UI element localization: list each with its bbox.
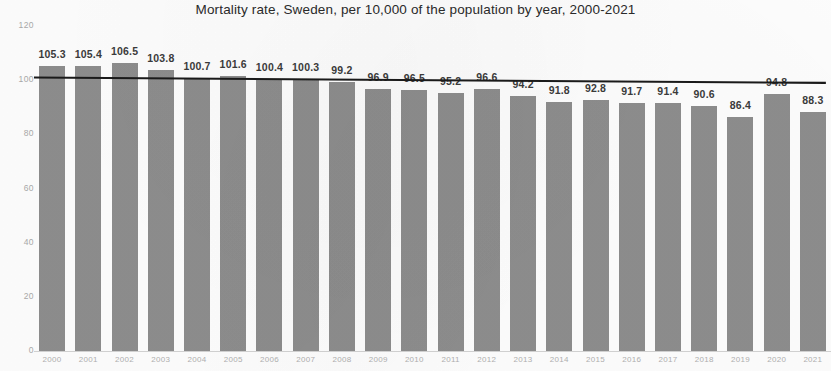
bar (546, 102, 572, 351)
bar-value-label: 94.2 (506, 78, 540, 90)
bar-rect (220, 76, 246, 351)
bar (184, 78, 210, 351)
bar-rect (691, 106, 717, 351)
y-axis-tick-label: 20 (4, 291, 34, 301)
x-axis-tick-label: 2015 (578, 355, 614, 364)
bar-rect (583, 100, 609, 351)
bar-rect (510, 96, 536, 351)
x-axis-tick-label: 2019 (722, 355, 758, 364)
x-axis-tick-label: 2004 (179, 355, 215, 364)
bar-value-label: 101.6 (216, 58, 250, 70)
y-axis-tick-label: 100 (4, 74, 34, 84)
bar-value-label: 92.8 (579, 82, 613, 94)
bar (112, 63, 138, 351)
x-axis-tick-label: 2014 (541, 355, 577, 364)
x-axis-tick-label: 2013 (505, 355, 541, 364)
bar (474, 89, 500, 351)
bar-value-label: 96.9 (361, 71, 395, 83)
bar (655, 103, 681, 351)
bar-value-label: 91.7 (615, 85, 649, 97)
bar-value-label: 91.4 (651, 85, 685, 97)
y-axis-tick-label: 0 (4, 345, 34, 355)
bar-rect (329, 82, 355, 351)
bar-value-label: 88.3 (796, 94, 830, 106)
x-axis-tick-label: 2021 (795, 355, 831, 364)
bar-rect (619, 103, 645, 351)
x-axis-tick-label: 2009 (360, 355, 396, 364)
bar (764, 94, 790, 351)
x-axis-tick-label: 2018 (686, 355, 722, 364)
x-axis-tick-label: 2020 (759, 355, 795, 364)
bar (148, 70, 174, 351)
bar (329, 82, 355, 351)
x-axis-tick-label: 2011 (433, 355, 469, 364)
x-axis-tick-label: 2005 (215, 355, 251, 364)
bar-value-label: 95.2 (434, 75, 468, 87)
bar (293, 79, 319, 351)
bar (583, 100, 609, 351)
bar-value-label: 103.8 (144, 52, 178, 64)
bar (438, 93, 464, 351)
x-axis-tick-label: 2001 (70, 355, 106, 364)
bar-rect (112, 63, 138, 351)
bar-rect (655, 103, 681, 351)
y-axis-tick-label: 60 (4, 183, 34, 193)
x-axis-tick-label: 2010 (396, 355, 432, 364)
bar (619, 103, 645, 351)
bar-rect (365, 89, 391, 351)
bar-value-label: 105.3 (35, 48, 69, 60)
x-axis-tick-label: 2017 (650, 355, 686, 364)
bar-value-label: 100.7 (180, 60, 214, 72)
bar-rect (800, 112, 826, 351)
y-axis-tick-label: 40 (4, 237, 34, 247)
bar (256, 79, 282, 351)
y-axis-tick-label: 120 (4, 20, 34, 30)
bar-value-label: 90.6 (687, 88, 721, 100)
bar-rect (546, 102, 572, 351)
bar-value-label: 99.2 (325, 64, 359, 76)
axis-baseline (34, 351, 831, 352)
bar-value-label: 100.3 (289, 61, 323, 73)
bar-rect (293, 79, 319, 351)
chart-title: Mortality rate, Sweden, per 10,000 of th… (0, 2, 831, 17)
bar-rect (184, 78, 210, 351)
x-axis-tick-label: 2002 (107, 355, 143, 364)
bar-rect (474, 89, 500, 351)
bar-value-label: 100.4 (252, 61, 286, 73)
x-axis-tick-label: 2016 (614, 355, 650, 364)
x-axis-tick-label: 2000 (34, 355, 70, 364)
bar (365, 89, 391, 351)
bar (401, 90, 427, 351)
bar (220, 76, 246, 351)
bar-rect (75, 66, 101, 351)
bar-value-label: 86.4 (723, 99, 757, 111)
x-axis-tick-label: 2007 (288, 355, 324, 364)
bar-value-label: 96.6 (470, 71, 504, 83)
bar (75, 66, 101, 351)
bar-rect (148, 70, 174, 351)
x-axis-tick-label: 2006 (251, 355, 287, 364)
bar-value-label: 105.4 (71, 48, 105, 60)
bar (510, 96, 536, 351)
bar (39, 66, 65, 351)
bar (800, 112, 826, 351)
x-axis-tick-label: 2012 (469, 355, 505, 364)
bar-value-label: 91.8 (542, 84, 576, 96)
bar (691, 106, 717, 351)
bar-rect (438, 93, 464, 351)
plot-area (34, 26, 831, 351)
x-axis-tick-label: 2008 (324, 355, 360, 364)
bar (727, 117, 753, 351)
bar-value-label: 94.8 (760, 76, 794, 88)
x-axis-tick-label: 2003 (143, 355, 179, 364)
bar-value-label: 106.5 (108, 45, 142, 57)
chart-container: Mortality rate, Sweden, per 10,000 of th… (0, 0, 831, 371)
bar-rect (401, 90, 427, 351)
bar-rect (764, 94, 790, 351)
bar-rect (727, 117, 753, 351)
bar-value-label: 96.5 (397, 72, 431, 84)
bar-rect (39, 66, 65, 351)
y-axis-tick-label: 80 (4, 128, 34, 138)
bar-rect (256, 79, 282, 351)
